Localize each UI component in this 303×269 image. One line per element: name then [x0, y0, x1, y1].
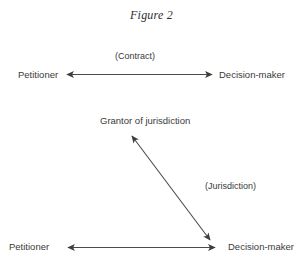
node-decision-maker-bottom: Decision-maker	[228, 242, 294, 252]
node-petitioner-top: Petitioner	[18, 70, 58, 80]
node-petitioner-bottom: Petitioner	[9, 242, 49, 252]
figure-title: Figure 2	[0, 8, 303, 23]
arrow-layer	[0, 0, 303, 269]
node-decision-maker-top: Decision-maker	[219, 70, 285, 80]
node-grantor-of-jurisdiction: Grantor of jurisdiction	[100, 116, 190, 126]
contract-relation-label: (Contract)	[115, 52, 155, 61]
figure-diagram: Figure 2 (Contract) Petitioner Decision-…	[0, 0, 303, 269]
jurisdiction-arrow	[132, 136, 210, 240]
jurisdiction-relation-label: (Jurisdiction)	[205, 182, 256, 191]
